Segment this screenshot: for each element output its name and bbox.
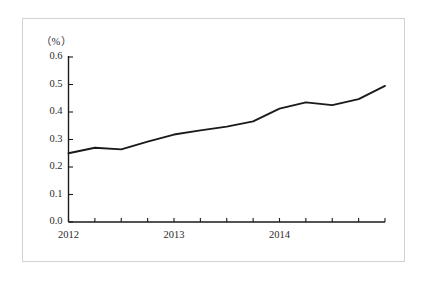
line-chart-plot	[0, 0, 428, 283]
figure-root: （%） 0.00.10.20.30.40.50.6 201220132014	[0, 0, 428, 283]
data-series-line	[69, 86, 386, 153]
